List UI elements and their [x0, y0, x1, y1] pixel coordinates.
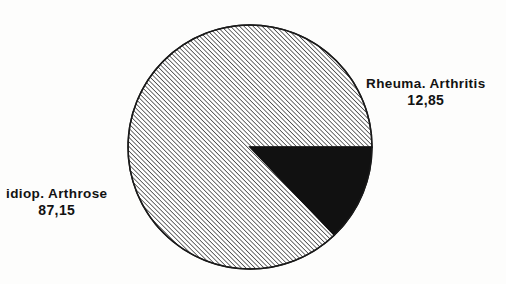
pie-chart-figure: Rheuma. Arthritis 12,85 idiop. Arthrose …	[0, 0, 506, 284]
pie-chart-svg	[0, 0, 506, 284]
slice-label-idiop-name: idiop. Arthrose	[6, 186, 108, 202]
slice-label-rheuma-name: Rheuma. Arthritis	[366, 76, 486, 92]
slice-label-rheuma-value: 12,85	[366, 92, 486, 109]
slice-label-idiop-arthrose: idiop. Arthrose 87,15	[6, 186, 108, 218]
slice-label-rheuma-arthritis: Rheuma. Arthritis 12,85	[366, 76, 486, 108]
slice-label-idiop-value: 87,15	[6, 202, 108, 219]
